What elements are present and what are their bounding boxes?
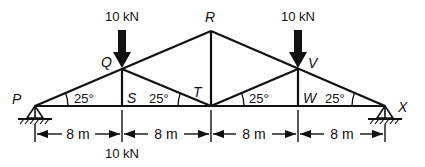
dimension-label-ST: 8 m (154, 126, 177, 142)
angle-label-T-left: 25° (149, 91, 169, 106)
node-label-S: S (127, 90, 137, 106)
angle-arc-X (352, 93, 355, 106)
truss-drawing: P Q R S T V W X 25° 25° 25° 25° 10 kN 10… (0, 0, 425, 167)
node-label-V: V (308, 55, 319, 71)
load-arrow-V (289, 30, 307, 68)
angle-arc-T-right (242, 93, 245, 106)
node-label-W: W (303, 90, 318, 106)
angle-arc-T-left (178, 93, 181, 106)
angle-arc-P (66, 93, 69, 106)
node-label-P: P (12, 91, 22, 107)
angle-label-T-right: 25° (249, 91, 269, 106)
dimension-label-TW: 8 m (242, 126, 265, 142)
node-label-X: X (397, 99, 408, 115)
node-label-R: R (205, 9, 215, 25)
load-label-Q: 10 kN (105, 9, 139, 24)
angle-label-P: 25° (74, 91, 94, 106)
truss-diagram: P Q R S T V W X 25° 25° 25° 25° 10 kN 10… (0, 0, 425, 167)
load-label-V: 10 kN (281, 9, 315, 24)
pin-support-left-icon (18, 106, 52, 124)
pin-support-right-icon (368, 106, 402, 124)
node-label-T: T (193, 84, 203, 100)
dimension-label-PS: 8 m (66, 126, 89, 142)
load-arrow-Q (113, 30, 131, 68)
angle-label-X: 25° (325, 91, 345, 106)
node-label-Q: Q (101, 54, 112, 70)
load-label-S: 10 kN (105, 146, 139, 161)
dimension-label-WX: 8 m (330, 126, 353, 142)
